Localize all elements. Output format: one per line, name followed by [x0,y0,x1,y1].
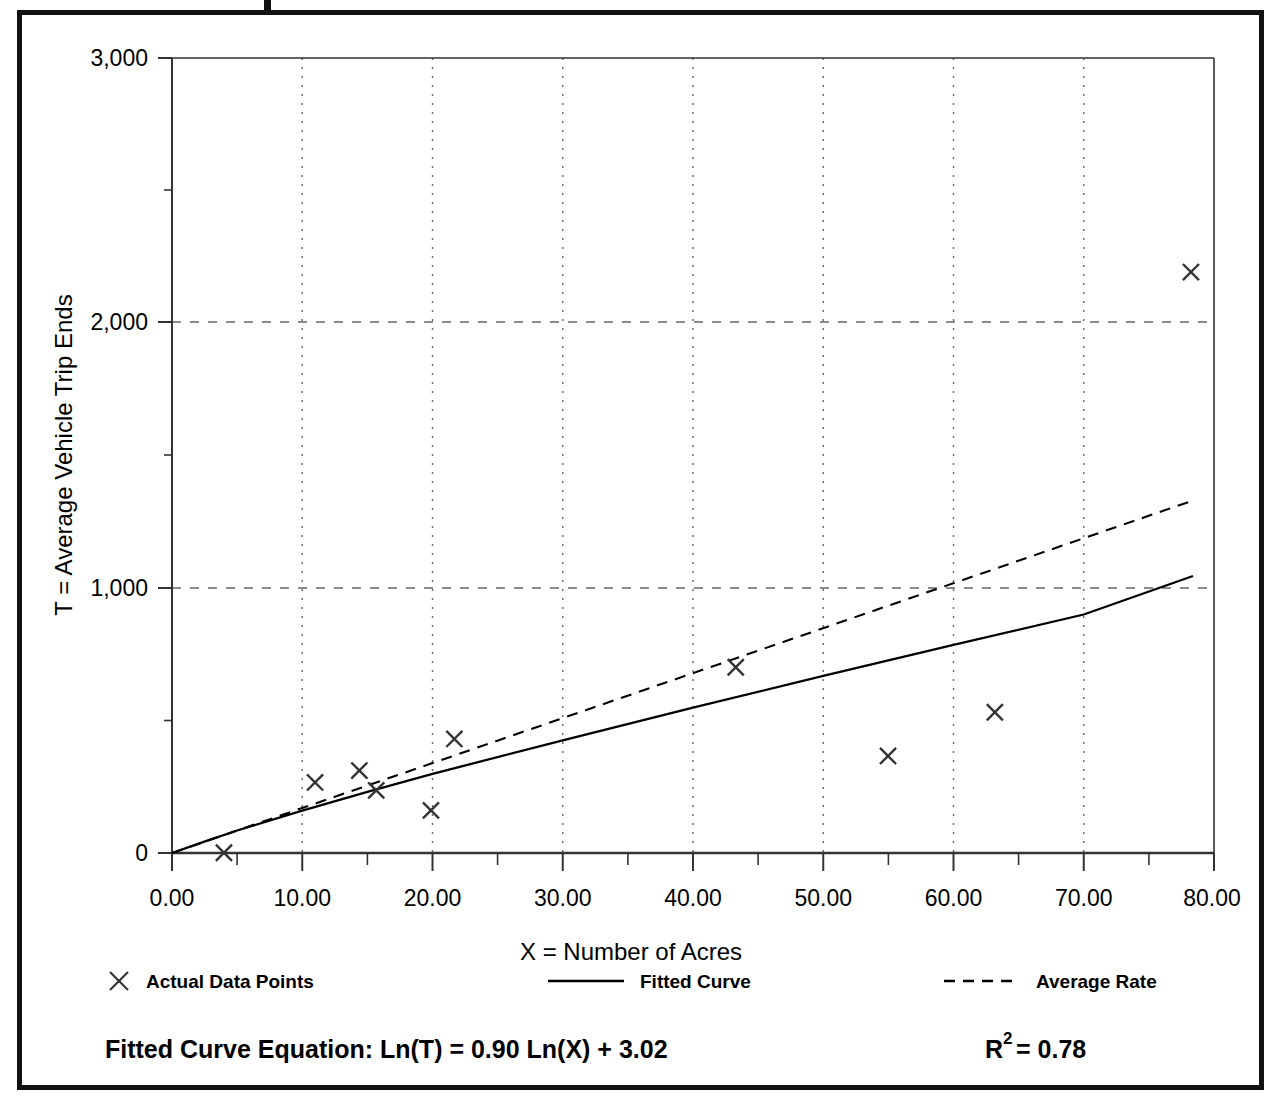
y-axis-minor-ticks [164,190,172,721]
data-point-marker [987,704,1003,720]
fitted-curve-equation: Fitted Curve Equation: Ln(T) = 0.90 Ln(X… [105,1035,668,1063]
y-tick-label-2000: 2,000 [90,309,148,335]
legend-label-actual-data-points: Actual Data Points [146,971,314,992]
chart-page: 0 1,000 2,000 3,000 0.00 10.00 20.00 30.… [0,0,1282,1102]
data-point-marker [880,748,896,764]
series-average-rate [172,501,1193,854]
x-tick-label-20: 20.00 [404,885,462,911]
x-tick-label-60: 60.00 [925,885,983,911]
r-squared-annotation: R 2 = 0.78 [985,1029,1086,1063]
y-tick-label-0: 0 [135,840,148,866]
x-tick-label-0: 0.00 [150,885,195,911]
legend-label-fitted-curve: Fitted Curve [640,971,751,992]
r-squared-value: = 0.78 [1016,1035,1086,1063]
y-tick-label-1000: 1,000 [90,575,148,601]
data-point-marker [351,763,367,779]
data-point-marker [307,774,323,790]
data-point-marker [1183,264,1199,280]
chart-legend: Actual Data Points Fitted Curve Average … [110,971,1157,992]
y-axis-title: T = Average Vehicle Trip Ends [50,294,77,615]
x-tick-label-80: 80.00 [1183,885,1241,911]
x-tick-label-10: 10.00 [273,885,331,911]
x-tick-label-50: 50.00 [794,885,852,911]
vertical-gridlines [302,58,1084,853]
data-point-marker [728,659,744,675]
legend-label-average-rate: Average Rate [1036,971,1157,992]
data-point-marker [423,802,439,818]
x-tick-label-30: 30.00 [534,885,592,911]
x-axis-title: X = Number of Acres [520,938,742,965]
x-tick-label-70: 70.00 [1055,885,1113,911]
data-point-marker [446,731,462,747]
legend-marker-actual-data-points [110,972,128,990]
scatter-plot-figure: 0 1,000 2,000 3,000 0.00 10.00 20.00 30.… [0,0,1282,1102]
x-axis-major-ticks [172,853,1214,871]
y-tick-label-3000: 3,000 [90,45,148,71]
series-actual-data-points [216,264,1199,861]
series-fitted-curve [172,576,1193,853]
r-squared-symbol: R [985,1035,1003,1063]
x-tick-label-40: 40.00 [664,885,722,911]
r-squared-superscript: 2 [1003,1029,1012,1048]
